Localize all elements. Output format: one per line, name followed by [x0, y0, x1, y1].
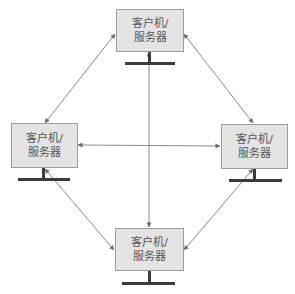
client-server-box: 客户机/ 服务器 [115, 228, 184, 271]
edge-left-bottom [45, 169, 114, 250]
node-label-line2: 服务器 [134, 31, 167, 45]
node-label-line2: 服务器 [28, 146, 61, 160]
node-label-line1: 客户机/ [26, 132, 63, 146]
node-label-line1: 客户机/ [131, 236, 168, 250]
edge-left-right [78, 145, 220, 146]
client-server-box: 客户机/ 服务器 [221, 124, 288, 169]
node-label-line2: 服务器 [133, 250, 166, 264]
node-label-line2: 服务器 [238, 147, 271, 161]
client-server-box: 客户机/ 服务器 [116, 9, 184, 52]
edge-top-left [45, 34, 115, 123]
monitor-base-icon [229, 179, 282, 182]
monitor-base-icon [18, 178, 70, 181]
node-label-line1: 客户机/ [132, 17, 169, 31]
edge-top-right [184, 34, 253, 123]
client-server-box: 客户机/ 服务器 [11, 123, 78, 168]
node-label-line1: 客户机/ [236, 133, 273, 147]
monitor-base-icon [125, 62, 175, 65]
monitor-base-icon [122, 282, 175, 285]
